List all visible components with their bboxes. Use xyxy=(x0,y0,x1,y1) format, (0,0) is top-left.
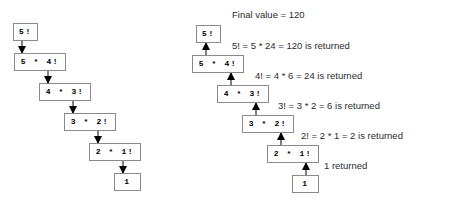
return-annotation-1: 5! = 5 * 24 = 120 is returned xyxy=(232,41,350,51)
return-frame-5: 1 xyxy=(292,175,319,193)
return-frame-label: 2 * 1! xyxy=(274,150,312,158)
return-annotation-5: 1 returned xyxy=(324,161,367,171)
return-frame-3: 3 * 2! xyxy=(242,115,294,133)
descent-frame-0: 5! xyxy=(13,23,38,41)
return-frame-label: 5 * 4! xyxy=(199,60,237,68)
descent-frame-2: 4 * 3! xyxy=(39,83,91,101)
return-frame-label: 5! xyxy=(202,30,215,38)
return-annotation-2: 4! = 4 * 6 = 24 is returned xyxy=(255,71,362,81)
descent-frame-label: 4 * 3! xyxy=(46,88,84,96)
descent-frame-label: 1 xyxy=(124,178,130,186)
return-frame-label: 1 xyxy=(302,180,308,188)
descent-frame-label: 2 * 1! xyxy=(96,148,134,156)
descent-frame-4: 2 * 1! xyxy=(89,143,141,161)
return-annotation-4: 2! = 2 * 1 = 2 is returned xyxy=(301,131,403,141)
descent-frame-label: 3 * 2! xyxy=(71,118,109,126)
return-frame-4: 2 * 1! xyxy=(267,145,319,163)
return-frame-2: 4 * 3! xyxy=(217,85,269,103)
descent-frame-3: 3 * 2! xyxy=(64,113,116,131)
return-frame-label: 3 * 2! xyxy=(249,120,287,128)
return-annotation-3: 3! = 3 * 2 = 6 is returned xyxy=(278,101,380,111)
return-frame-1: 5 * 4! xyxy=(192,55,244,73)
descent-frame-1: 5 * 4! xyxy=(14,53,66,71)
descent-frame-label: 5! xyxy=(19,28,32,36)
descent-frame-5: 1 xyxy=(114,173,141,191)
factorial-recursion-diagram: 5!5 * 4!4 * 3!3 * 2!2 * 1!1 5!5 * 4!4 * … xyxy=(0,0,460,201)
return-frame-0: 5! xyxy=(196,25,221,43)
return-frame-label: 4 * 3! xyxy=(224,90,262,98)
descent-frame-label: 5 * 4! xyxy=(21,58,59,66)
return-annotation-0: Final value = 120 xyxy=(232,10,305,20)
